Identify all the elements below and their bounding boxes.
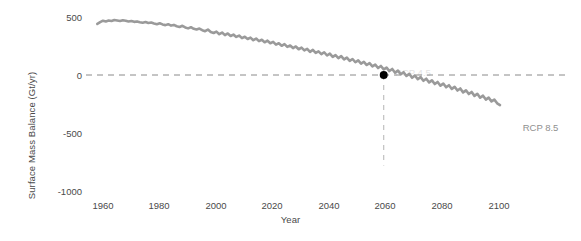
series-line-rcp85 [97,20,500,105]
chart-figure: Surface Mass Balance (Gt/yr) 500 0 -500 … [0,0,581,241]
zero-crossing-marker [380,71,388,79]
chart-plot-area [0,0,581,241]
